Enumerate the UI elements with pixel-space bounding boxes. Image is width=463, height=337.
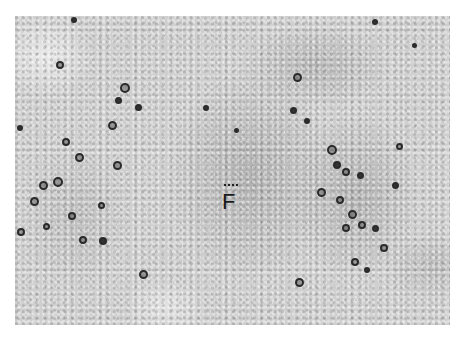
stained-cell	[392, 182, 399, 189]
stained-cell	[75, 153, 84, 162]
stained-cell	[71, 17, 77, 23]
stained-cell	[396, 143, 403, 150]
stained-cell	[290, 107, 297, 114]
stained-cell	[333, 161, 341, 169]
stained-cell	[295, 278, 304, 287]
stained-cell	[56, 61, 64, 69]
stained-cell	[234, 128, 239, 133]
stained-cell	[108, 121, 117, 130]
stained-cell	[327, 145, 337, 155]
stained-cell	[357, 172, 364, 179]
stained-cell	[99, 237, 107, 245]
stained-cell	[30, 197, 39, 206]
follicle-label: F	[222, 189, 235, 215]
stained-cell	[115, 97, 122, 104]
stained-cell	[348, 210, 357, 219]
tissue-texture	[15, 16, 450, 325]
stained-cell	[120, 83, 130, 93]
label-mark	[224, 184, 238, 188]
stained-cell	[79, 236, 87, 244]
stained-cell	[135, 104, 142, 111]
stained-cell	[139, 270, 148, 279]
micrograph-image	[15, 16, 450, 325]
stained-cell	[98, 202, 105, 209]
stained-cell	[412, 43, 417, 48]
stained-cell	[342, 168, 350, 176]
stained-cell	[203, 105, 209, 111]
stained-cell	[372, 19, 378, 25]
stained-cell	[293, 73, 302, 82]
stained-cell	[304, 118, 310, 124]
stained-cell	[336, 196, 344, 204]
stained-cell	[113, 161, 122, 170]
stained-cell	[62, 138, 70, 146]
stained-cell	[39, 181, 48, 190]
stained-cell	[351, 258, 359, 266]
stained-cell	[372, 225, 379, 232]
stained-cell	[43, 223, 50, 230]
stained-cell	[317, 188, 326, 197]
stained-cell	[364, 267, 370, 273]
stained-cell	[17, 125, 23, 131]
stained-cell	[53, 177, 63, 187]
stained-cell	[358, 221, 366, 229]
stained-cell	[342, 224, 350, 232]
stained-cell	[68, 212, 76, 220]
stained-cell	[380, 244, 388, 252]
stained-cell	[17, 228, 25, 236]
